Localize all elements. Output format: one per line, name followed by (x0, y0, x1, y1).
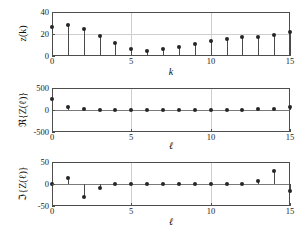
y-tick-mark (52, 184, 55, 185)
data-point-marker (82, 195, 86, 199)
data-point-marker (193, 108, 197, 112)
stem-line (274, 35, 275, 56)
data-point-marker (129, 182, 133, 186)
data-point-marker (177, 182, 181, 186)
stem-line (258, 37, 259, 56)
gridline-horizontal (53, 34, 289, 35)
data-point-marker (145, 182, 149, 186)
data-point-marker (193, 42, 197, 46)
plot-panel-imag: 051015-50050ℓℑ{Z(ℓ)} (0, 152, 308, 232)
plot-panel-magnitude: 05101502040kz(k) (0, 2, 308, 80)
x-tick-label: 15 (286, 57, 295, 66)
y-tick-mark (52, 132, 55, 133)
data-point-marker (98, 108, 102, 112)
data-point-marker (256, 35, 260, 39)
data-point-marker (288, 30, 292, 34)
data-point-marker (193, 182, 197, 186)
y-tick-mark (52, 162, 55, 163)
data-point-marker (240, 108, 244, 112)
figure-stem-plots: 05101502040kz(k) 051015-5000500ℓℜ{Z(ℓ)} … (0, 0, 308, 232)
data-point-marker (129, 108, 133, 112)
plot-panel-real: 051015-5000500ℓℜ{Z(ℓ)} (0, 78, 308, 154)
stem-line (84, 29, 85, 57)
data-point-marker (209, 182, 213, 186)
baseline (53, 184, 289, 185)
x-tick-label: 5 (129, 133, 133, 142)
data-point-marker (272, 107, 276, 111)
baseline (53, 110, 289, 111)
y-tick-mark (52, 88, 55, 89)
x-tick-label: 0 (50, 133, 54, 142)
stem-line (52, 27, 53, 56)
stem-line (115, 43, 116, 56)
y-axis-label-imag: ℑ{Z(ℓ)} (17, 154, 28, 214)
x-tick-label: 0 (50, 57, 54, 66)
y-axis-label-real: ℜ{Z(ℓ)} (17, 80, 28, 140)
data-point-marker (240, 182, 244, 186)
data-point-marker (225, 108, 229, 112)
y-tick-mark (52, 34, 55, 35)
data-point-marker (82, 27, 86, 31)
x-tick-label: 10 (207, 57, 216, 66)
data-point-marker (256, 179, 260, 183)
y-tick-mark (52, 206, 55, 207)
x-axis-label-magnitude: k (169, 66, 173, 77)
data-point-marker (177, 108, 181, 112)
data-point-marker (225, 37, 229, 41)
y-tick-mark (52, 110, 55, 111)
y-tick-mark (52, 56, 55, 57)
x-axis-label-real: ℓ (169, 140, 173, 151)
data-point-marker (98, 186, 102, 190)
data-point-marker (288, 189, 292, 193)
data-point-marker (66, 176, 70, 180)
x-tick-label: 10 (207, 207, 216, 216)
data-point-marker (225, 182, 229, 186)
data-point-marker (161, 108, 165, 112)
y-axis-label-magnitude: z(k) (17, 4, 28, 64)
data-point-marker (145, 108, 149, 112)
stem-line (68, 25, 69, 56)
data-point-marker (113, 108, 117, 112)
x-tick-label: 10 (207, 133, 216, 142)
x-tick-label: 5 (129, 57, 133, 66)
stem-line (227, 39, 228, 56)
data-point-marker (288, 105, 292, 109)
x-tick-label: 5 (129, 207, 133, 216)
data-point-marker (272, 33, 276, 37)
y-tick-mark (52, 12, 55, 13)
x-tick-label: 0 (50, 207, 54, 216)
data-point-marker (161, 182, 165, 186)
x-tick-label: 15 (286, 207, 295, 216)
stem-line (274, 171, 275, 184)
data-point-marker (209, 108, 213, 112)
stem-line (100, 36, 101, 56)
stem-line (242, 37, 243, 56)
x-axis-label-imag: ℓ (169, 216, 173, 227)
data-point-marker (145, 49, 149, 53)
x-tick-label: 15 (286, 133, 295, 142)
data-point-marker (98, 34, 102, 38)
